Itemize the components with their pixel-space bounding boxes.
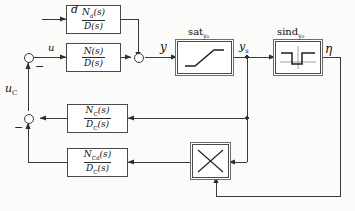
numerator: Nd(s): [80, 8, 107, 20]
controller-transfer-block[interactable]: NC(s) DC(s): [67, 104, 128, 133]
sind-block-label: sindy₀: [277, 26, 304, 39]
signal-label-y: y: [160, 40, 167, 54]
cross-multiplier-icon: [195, 147, 226, 175]
denominator: D(s): [82, 57, 105, 68]
saturation-block-label: saty₀: [188, 26, 209, 39]
disturbance-controller-transfer-block[interactable]: NCd(s) DC(s): [67, 148, 128, 177]
notch-curve-icon: [278, 44, 318, 71]
signal-label-ys: ys: [239, 40, 249, 55]
saturation-block[interactable]: [177, 41, 232, 74]
summing-junction-u[interactable]: [24, 53, 34, 63]
sind-block[interactable]: [275, 41, 321, 74]
denominator: D(s): [82, 20, 105, 31]
plant-transfer-block[interactable]: N(s) D(s): [66, 43, 121, 72]
signal-label-u: u: [48, 42, 54, 53]
block-diagram: Nd(s) D(s) N(s) D(s) NC(s) DC(s) NCd(s) …: [0, 0, 355, 211]
saturation-curve-icon: [181, 45, 228, 70]
numerator: N(s): [82, 47, 106, 57]
sign-minus-uc: −: [14, 121, 23, 134]
sign-minus-u: −: [35, 60, 44, 73]
signal-label-uc: uC: [5, 82, 17, 97]
denominator: DC(s): [84, 162, 111, 175]
numerator: NC(s): [84, 106, 112, 118]
denominator: DC(s): [84, 118, 111, 131]
signal-label-d: d: [71, 3, 78, 16]
numerator: NCd(s): [82, 150, 113, 162]
summing-junction-uc[interactable]: [24, 114, 34, 124]
signal-label-eta: η: [325, 42, 332, 56]
summing-junction-y[interactable]: [134, 53, 144, 63]
multiplier-block[interactable]: [192, 144, 229, 178]
